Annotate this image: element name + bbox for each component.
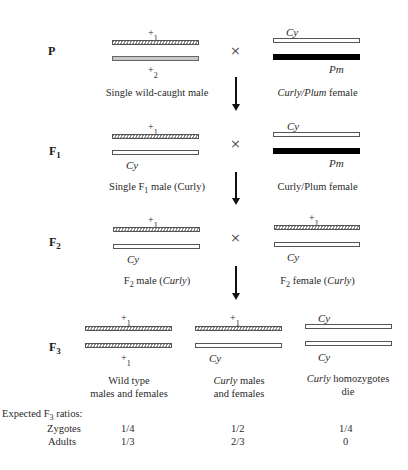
chromosome-wild-1 (113, 227, 200, 232)
chromosome-curly (273, 38, 360, 43)
chromosome-curly (113, 244, 200, 249)
chromosome-wild-1 (112, 134, 199, 139)
allele-cy: Cy (287, 251, 299, 263)
allele-cy: Cy (318, 351, 330, 363)
chromosome-curly (274, 242, 360, 247)
caption-f2-female: F2 female (Curly) (260, 275, 375, 289)
generation-label-f2: F2 (49, 235, 61, 251)
generation-label-p: P (48, 44, 55, 59)
ratio-row-label-adults: Adults (48, 436, 76, 447)
allele-cy: Cy (126, 159, 138, 171)
allele-pm: Pm (329, 157, 344, 169)
chromosome-wild-1 (85, 343, 172, 348)
chromosome-wild-1 (274, 225, 360, 230)
arrow-down-icon (235, 172, 237, 199)
caption-f1-female: Curly/Plum female (260, 181, 375, 192)
chromosome-curly (273, 132, 360, 137)
chromosome-curly (305, 341, 392, 346)
generation-label-f1: F1 (49, 144, 61, 160)
caption-f3-curly-homozygotes: Curly homozygotesdie (289, 372, 407, 398)
ratio-value: 1/4 (339, 423, 352, 434)
allele-cy: Cy (287, 120, 299, 132)
caption-f1-male: Single F1 male (Curly) (95, 181, 219, 195)
arrow-down-icon (235, 77, 237, 105)
arrow-down-icon (235, 266, 237, 294)
caption-p-male: Single wild-caught male (95, 87, 219, 98)
caption-f3-wild-type: Wild typemales and females (70, 374, 188, 400)
allele-cy: Cy (127, 253, 139, 265)
caption-p-female: Curly/Plum female (260, 87, 375, 98)
allele-pm: Pm (329, 63, 344, 75)
ratio-value: 1/2 (231, 423, 244, 434)
allele-cy: Cy (318, 312, 330, 324)
ratios-heading: Expected F3 ratios: (2, 408, 82, 422)
allele-cy: Cy (286, 26, 298, 38)
allele-plus2: +2 (148, 64, 158, 82)
chromosome-plum (273, 54, 360, 60)
ratio-value: 1/3 (121, 436, 134, 447)
ratio-value: 2/3 (231, 436, 244, 447)
cross-symbol: × (230, 136, 241, 151)
chromosome-wild-1 (195, 326, 282, 331)
allele-plus1: +1 (121, 352, 131, 370)
chromosome-curly (112, 150, 199, 155)
chromosome-wild-1 (85, 326, 172, 331)
chromosome-curly (305, 324, 392, 329)
genetics-cross-diagram: { "generations": { "P": {"label": "P", "… (0, 0, 408, 470)
chromosome-wild-1 (112, 40, 199, 45)
chromosome-wild-2 (112, 56, 199, 61)
caption-f2-male: F2 male (Curly) (95, 275, 219, 289)
cross-symbol: × (230, 43, 241, 58)
ratio-row-label-zygotes: Zygotes (47, 423, 81, 434)
allele-cy: Cy (209, 352, 221, 364)
ratio-value: 0 (343, 436, 348, 447)
cross-symbol: × (230, 230, 241, 245)
caption-f3-curly: Curly malesand females (180, 374, 298, 400)
ratio-value: 1/4 (121, 423, 134, 434)
generation-label-f3: F3 (49, 340, 61, 356)
chromosome-curly (195, 343, 282, 348)
chromosome-plum (273, 148, 360, 154)
